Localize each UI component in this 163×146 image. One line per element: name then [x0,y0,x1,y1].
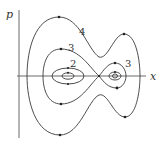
p-axis-label: p [6,8,13,21]
curve-label-3-left: 3 [68,42,74,53]
arrow-marker [67,72,69,74]
arrow-marker [59,134,62,137]
saddle-point [98,75,100,77]
arrow-marker [60,103,63,106]
arrow-marker [67,67,69,69]
arrow-marker [58,16,61,19]
arrow-marker [67,83,69,85]
curve-label-2: 2 [70,58,76,69]
arrow-marker [114,62,116,64]
arrow-marker [60,48,63,51]
x-axis-label: x [150,70,157,83]
arrow-marker [116,87,119,90]
arrow-marker [124,116,127,119]
arrow-marker [123,33,126,36]
arrow-marker [114,71,116,73]
curve-label-3-right: 3 [125,58,131,69]
curve-label-4: 4 [79,26,85,37]
phase-portrait-diagram: p x 4 3 2 3 [0,0,163,146]
